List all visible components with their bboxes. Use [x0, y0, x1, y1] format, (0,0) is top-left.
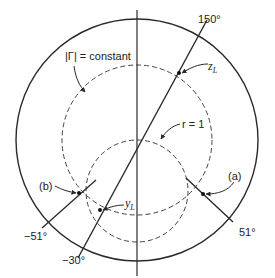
- r1-leader-arrow: [161, 124, 180, 139]
- radial-line-a: [186, 178, 233, 222]
- point-a-label: (a): [228, 170, 241, 182]
- zL-leader-arrow: [182, 64, 208, 73]
- angle-neg51-label: −51°: [24, 230, 47, 242]
- angle-neg30-label: −30°: [62, 254, 85, 266]
- point-a-marker: [201, 192, 205, 196]
- angle-150-label: 150°: [198, 13, 221, 25]
- yL-label: yL: [124, 196, 135, 212]
- zL-point: [177, 71, 181, 75]
- zL-label: zL: [207, 59, 218, 75]
- a-leader-arrow: [206, 182, 234, 194]
- r-equals-1-label: r = 1: [182, 118, 204, 130]
- point-b-label: (b): [39, 180, 52, 192]
- angle-51-label: 51°: [239, 226, 256, 238]
- yL-point: [98, 208, 102, 212]
- b-leader-arrow: [55, 186, 76, 193]
- gamma-constant-label: |Γ| = constant: [65, 50, 131, 62]
- smith-chart-diagram: |Γ| = constant 150° zL r = 1 (a) (b) yL …: [0, 0, 275, 278]
- point-b-marker: [77, 191, 81, 195]
